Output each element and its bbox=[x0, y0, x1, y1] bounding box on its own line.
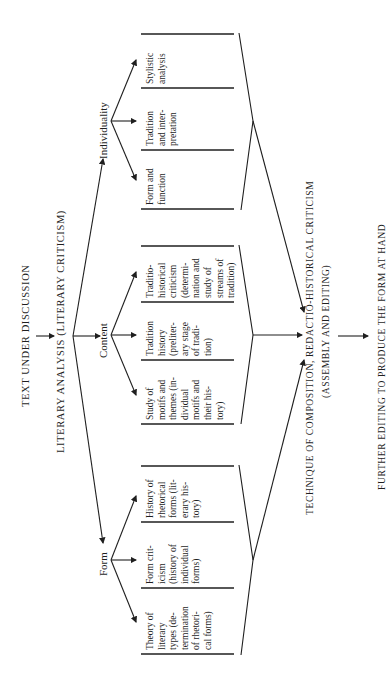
arrow-form-3 bbox=[111, 560, 136, 622]
arrow-content-3 bbox=[111, 335, 136, 395]
node-further-editing: FURTHER EDITING TO PRODUCE THE FORM AT H… bbox=[376, 224, 387, 490]
arrow-form-1 bbox=[111, 496, 136, 560]
branch-label-individuality: Individuality bbox=[97, 102, 109, 159]
arrow-analysis-to-form bbox=[73, 336, 103, 543]
branch-cell: Form and function bbox=[145, 168, 168, 205]
converge-form bbox=[239, 465, 253, 655]
node-literary-analysis: LITERARY ANALYSIS (LITERARY CRITICISM) bbox=[55, 210, 66, 453]
branch-cell: Traditio- historical criticism (determi-… bbox=[145, 258, 238, 298]
branch-cell: Tradition and inter- pretation bbox=[145, 110, 180, 146]
node-technique-line2: (ASSEMBLY AND EDITING) bbox=[320, 265, 331, 398]
arrow-individuality-to-technique bbox=[253, 121, 304, 312]
arrow-content-1 bbox=[111, 272, 136, 335]
branch-cell: Tradition history (preliter- ary stage o… bbox=[145, 321, 215, 356]
arrow-form-to-technique bbox=[253, 360, 304, 560]
branch-cell: Theory of literary types (de- terminatio… bbox=[145, 606, 215, 650]
node-text-under-discussion: TEXT UNDER DISCUSSION bbox=[20, 265, 31, 408]
node-technique-line1: TECHNIQUE OF COMPOSITION, REDACTIO-HISTO… bbox=[304, 181, 315, 515]
arrow-individuality-1 bbox=[111, 60, 136, 121]
branch-cell: History of rhetorical forms (lit- erary … bbox=[145, 479, 203, 518]
literary-criticism-diagram: TEXT UNDER DISCUSSION LITERARY ANALYSIS … bbox=[0, 0, 392, 700]
branch-label-content: Content bbox=[97, 323, 109, 358]
arrow-analysis-to-individuality bbox=[73, 159, 103, 336]
arrow-individuality-3 bbox=[111, 121, 136, 180]
branch-cell: Stylistic analysis bbox=[145, 53, 168, 84]
branch-cell: Form crit- icism (history of individual … bbox=[145, 544, 203, 584]
branch-cell: Study of motifs and themes (in- dividual… bbox=[145, 377, 226, 420]
branch-label-form: Form bbox=[97, 552, 109, 576]
converge-individuality bbox=[239, 33, 253, 210]
converge-content bbox=[239, 245, 253, 424]
